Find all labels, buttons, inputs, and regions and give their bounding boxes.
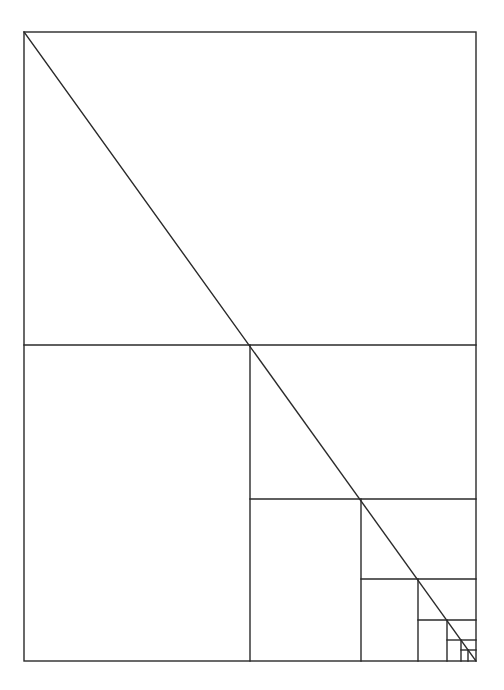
root-rectangle-subdivision-diagram — [0, 0, 504, 690]
subdivision-lines — [24, 345, 476, 661]
